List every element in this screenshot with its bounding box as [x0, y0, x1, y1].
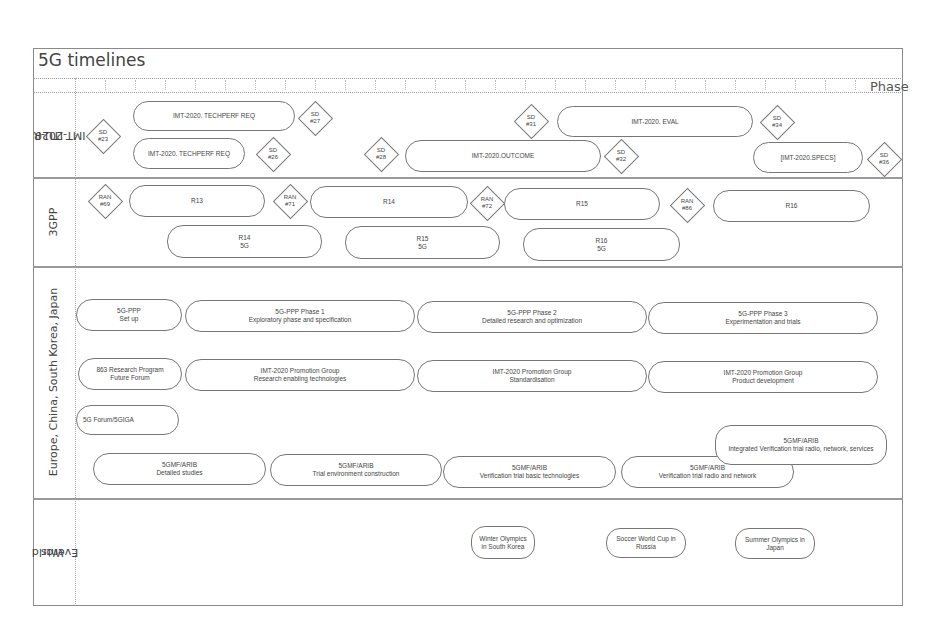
milestone-sd32: SD#32	[604, 139, 638, 173]
milestone-sd31: SD#31	[514, 104, 548, 138]
row-label-3gpp: 3GPP	[33, 177, 75, 266]
china-imt2020-product: IMT-2020 Promotion GroupProduct developm…	[648, 361, 878, 393]
release-r16: R16	[713, 190, 870, 222]
release-r15-5g: R155G	[345, 226, 500, 259]
milestone-sd23: SD#23	[86, 119, 120, 153]
bar-techperf-req-2: IMT-2020. TECHPERF REQ	[133, 138, 245, 169]
header-divider	[33, 78, 903, 79]
diagram-title: 5G timelines	[38, 50, 145, 70]
bar-techperf-req-1: IMT-2020. TECHPERF REQ	[133, 101, 295, 131]
release-r15: R15	[504, 188, 660, 220]
row-divider-3gpp	[33, 266, 903, 268]
milestone-sd28: SD#28	[364, 137, 398, 171]
release-r14: R14	[310, 186, 468, 218]
china-863-program: 863 Research ProgramFuture Forum	[78, 358, 182, 390]
milestone-ran86: RAN#86	[670, 188, 704, 222]
release-r13: R13	[129, 185, 265, 217]
ppp-phase2: 5G-PPP Phase 2Detailed research and opti…	[417, 301, 647, 333]
tick-divider	[33, 92, 903, 93]
milestone-sd27: SD#27	[298, 101, 332, 135]
milestone-sd26: SD#26	[256, 137, 290, 171]
row-label-events: WorldEvents	[33, 498, 75, 606]
row-divider-itu	[33, 177, 903, 179]
row-label-itu: ITU-RIMT-2020	[33, 92, 75, 177]
event-world-cup: Soccer World Cup in Russia	[606, 528, 686, 558]
event-winter-olympics: Winter Olympics in South Korea	[471, 526, 535, 559]
china-imt2020-research: IMT-2020 Promotion GroupResearch enablin…	[185, 359, 415, 391]
japan-trial-environment: 5GMF/ARIBTrial environment construction	[270, 454, 442, 486]
label-column-divider	[75, 78, 76, 606]
event-summer-olympics: Summer Olympics in Japan	[735, 528, 815, 559]
bar-specs: [IMT-2020.SPECS]	[753, 142, 863, 173]
ppp-setup: 5G-PPPSet up	[76, 299, 182, 331]
row-label-regional: Europe, China, South Korea, Japan	[33, 266, 75, 498]
row-divider-regional	[33, 498, 903, 500]
milestone-ran69: RAN#69	[88, 184, 122, 218]
milestone-sd36: SD#36	[867, 142, 901, 176]
ppp-phase3: 5G-PPP Phase 3Experimentation and trials	[648, 302, 878, 334]
bar-eval: IMT-2020. EVAL	[557, 106, 753, 137]
milestone-ran72: RAN#72	[470, 186, 504, 220]
milestone-sd34: SD#34	[760, 105, 794, 139]
japan-detailed-studies: 5GMF/ARIBDetailed studies	[93, 453, 266, 485]
china-imt2020-standardisation: IMT-2020 Promotion GroupStandardisation	[417, 360, 647, 392]
release-r16-5g: R165G	[523, 228, 680, 261]
ppp-phase1: 5G-PPP Phase 1Exploratory phase and spec…	[185, 300, 415, 332]
bar-outcome: IMT-2020.OUTCOME	[405, 140, 601, 172]
milestone-ran71: RAN#71	[273, 184, 307, 218]
japan-integrated-verification: 5GMF/ARIBIntegrated Verification trial r…	[715, 425, 887, 465]
japan-verification-basic: 5GMF/ARIBVerification trial basic techno…	[443, 456, 616, 488]
release-r14-5g: R145G	[167, 225, 322, 258]
korea-5g-forum: 5G Forum/5GIGA	[76, 405, 179, 435]
